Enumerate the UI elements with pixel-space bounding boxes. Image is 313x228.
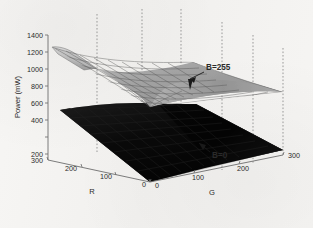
y-tick-label-300: 300 [288, 151, 300, 160]
z-tick-label-800: 800 [31, 82, 43, 91]
z-tick-label-1000: 1000 [27, 65, 43, 74]
x-tick-label-300: 300 [31, 156, 43, 165]
y-tick-label-100: 100 [192, 173, 204, 182]
z-tick-label-1400: 1400 [27, 31, 43, 40]
x-axis-title: R [89, 187, 95, 196]
annotation-b255-label: B=255 [206, 63, 231, 72]
plot-canvas: 1400 1200 1000 800 600 400 200 Power (mW… [0, 0, 313, 228]
z-tick-label-400: 400 [31, 116, 43, 125]
figure-3d-surface-plot: 1400 1200 1000 800 600 400 200 Power (mW… [0, 0, 313, 228]
z-axis-group: 1400 1200 1000 800 600 400 200 Power (mW… [13, 31, 48, 161]
x-tick-label-100: 100 [100, 172, 112, 181]
annotation-b0-label: B=0 [212, 151, 228, 160]
z-tick-label-1200: 1200 [27, 48, 43, 57]
x-tick-label-0: 0 [142, 180, 146, 189]
y-tick-label-200: 200 [237, 164, 249, 173]
x-tick-label-200: 200 [65, 164, 77, 173]
y-axis-title: G [209, 188, 215, 197]
surface-b255 [52, 47, 283, 107]
z-tick-label-600: 600 [31, 99, 43, 108]
y-tick-label-0: 0 [155, 181, 159, 190]
z-axis-title: Power (mW) [13, 75, 22, 118]
